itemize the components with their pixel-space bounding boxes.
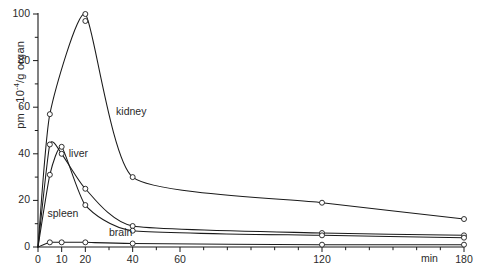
series-label-kidney: kidney [116,105,146,117]
x-tick-label: 20 [70,253,100,265]
y-tick-label: 40 [4,147,30,159]
figure: pm · 10-4/g organ 020406080100 010204060… [0,0,477,271]
data-point-brain [130,241,135,246]
data-point-kidney [83,12,88,17]
y-tick-label: 60 [4,100,30,112]
x-axis-unit-label: min [421,252,438,264]
data-point-kidney [130,175,135,180]
y-tick-label: 20 [4,193,30,205]
data-point-kidney [462,217,467,222]
data-point-brain [59,240,64,245]
y-tick-label: 80 [4,54,30,66]
x-tick-label: 40 [118,253,148,265]
x-tick-label: 180 [449,253,477,265]
series-line-brain [38,242,464,247]
chart-canvas [0,0,477,271]
data-point-brain [47,240,52,245]
y-axis-label: pm · 10-4/g organ [12,30,26,140]
data-point-spleen [462,235,467,240]
data-point-liver [59,151,64,156]
data-point-brain [320,242,325,247]
series-label-spleen: spleen [47,207,78,219]
series-line-kidney [38,14,464,247]
x-tick-label: 120 [307,253,337,265]
data-point-kidney [320,200,325,205]
data-point-liver [83,186,88,191]
data-point-spleen [83,203,88,208]
data-point-liver [47,142,52,147]
series-line-liver [38,142,464,247]
data-point-spleen [59,144,64,149]
y-axis-label-exponent: -4 [12,83,21,90]
series-label-brain: brain [109,226,132,238]
data-point-spleen [47,172,52,177]
x-tick-label: 60 [165,253,195,265]
y-tick-label: 100 [4,7,30,19]
series-label-liver: liver [69,147,88,159]
data-point-brain [462,242,467,247]
data-point-brain [83,240,88,245]
data-point-kidney [47,112,52,117]
data-point-spleen [320,233,325,238]
y-tick-label: 0 [4,240,30,252]
data-point-kidney [83,18,88,23]
